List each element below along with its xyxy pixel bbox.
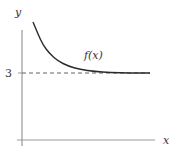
x-axis-label: x — [163, 134, 170, 147]
plot-area: y x 3 f(x) — [0, 0, 176, 155]
curve-label: f(x) — [83, 49, 103, 62]
y-tick-label-3: 3 — [5, 67, 12, 80]
curve-f — [33, 22, 150, 73]
y-axis-label: y — [14, 6, 22, 19]
chart: y x 3 f(x) — [0, 0, 176, 155]
